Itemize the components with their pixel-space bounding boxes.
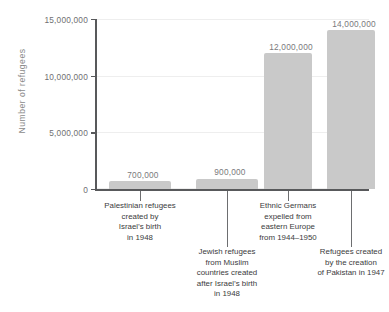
leader-line-pakistan-refugees xyxy=(351,191,352,247)
y-tick-10000000 xyxy=(91,76,96,77)
category-label-line: Palestinian refugees xyxy=(82,201,198,212)
category-label-line: in 1948 xyxy=(82,233,198,244)
category-label-line: eastern Europe xyxy=(230,222,346,233)
category-label-line: in 1948 xyxy=(169,289,285,300)
leader-line-jewish-refugees xyxy=(227,191,228,247)
category-label-pakistan-refugees: Refugees created by the creation of Paki… xyxy=(293,247,389,279)
y-tick-15000000 xyxy=(91,19,96,20)
x-axis-line xyxy=(95,189,369,191)
y-tick-label-5000000: 5,000,000 xyxy=(49,128,88,138)
y-tick-label-0: 0 xyxy=(83,185,88,195)
bar-jewish-refugees[interactable] xyxy=(196,179,258,189)
category-label-line: Refugees created xyxy=(293,247,389,258)
category-label-line: expelled from xyxy=(230,212,346,223)
bar-palestinian-refugees[interactable] xyxy=(109,181,171,189)
y-tick-label-15000000: 15,000,000 xyxy=(44,15,88,25)
leader-line-ethnic-germans xyxy=(288,191,289,201)
y-tick-5000000 xyxy=(91,132,96,133)
category-label-line: by the creation xyxy=(293,258,389,269)
category-label-line: Israel’s birth xyxy=(82,222,198,233)
bar-value-pakistan-refugees: 14,000,000 xyxy=(304,19,389,29)
category-label-line: from Muslim xyxy=(169,258,285,269)
category-label-line: after Israel’s birth xyxy=(169,279,285,290)
category-label-line: from 1944–1950 xyxy=(230,233,346,244)
category-label-ethnic-germans: Ethnic Germans expelled from eastern Eur… xyxy=(230,201,346,243)
category-label-line: created by xyxy=(82,212,198,223)
category-label-line: Jewish refugees xyxy=(169,247,285,258)
category-label-jewish-refugees: Jewish refugees from Muslim countries cr… xyxy=(169,247,285,300)
bar-value-palestinian-refugees: 700,000 xyxy=(97,170,189,180)
y-axis-title: Number of refugees xyxy=(17,21,27,161)
y-tick-label-10000000: 10,000,000 xyxy=(44,72,88,82)
bar-value-ethnic-germans: 12,000,000 xyxy=(241,42,341,52)
category-label-palestinian-refugees: Palestinian refugees created by Israel’s… xyxy=(82,201,198,243)
category-label-line: of Pakistan in 1947 xyxy=(293,268,389,279)
bar-value-jewish-refugees: 900,000 xyxy=(184,167,276,177)
category-label-line: Ethnic Germans xyxy=(230,201,346,212)
bar-pakistan-refugees[interactable] xyxy=(327,30,375,189)
category-label-line: countries created xyxy=(169,268,285,279)
leader-line-palestinian-refugees xyxy=(140,191,141,201)
